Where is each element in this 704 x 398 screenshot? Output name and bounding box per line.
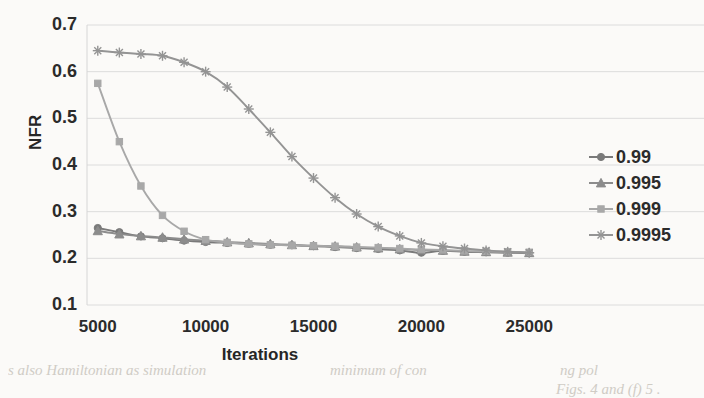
data-point-square [397,245,403,251]
y-tick-label: 0.5 [29,107,77,128]
y-tick-label: 0.6 [29,61,77,82]
legend: 0.990.9950.9990.9995 [588,144,671,248]
data-point-asterisk [179,57,189,67]
data-point-asterisk [524,248,534,258]
legend-label: 0.995 [616,174,661,192]
x-tick-label: 5000 [53,317,143,337]
data-point-square [289,242,295,248]
data-point-square [224,239,230,245]
legend-label: 0.99 [616,148,651,166]
data-point-asterisk [158,51,168,61]
x-tick-label: 15000 [269,317,359,337]
data-point-square [116,138,122,144]
legend-marker-square-icon [588,202,614,216]
data-point-asterisk [287,152,297,162]
data-point-square [95,80,101,86]
y-tick-label: 0.4 [29,154,77,175]
legend-marker-triangle-icon [588,176,614,190]
data-point-square [138,183,144,189]
data-point-square [310,243,316,249]
data-point-square [246,241,252,247]
legend-marker-asterisk-icon [588,228,614,242]
y-tick-label: 0.1 [29,294,77,315]
data-point-square [181,228,187,234]
data-point-asterisk [395,231,405,241]
data-point-square [353,244,359,250]
series-0.999 [95,80,533,255]
data-point-asterisk [265,127,275,137]
data-point-asterisk [438,241,448,251]
legend-label: 0.9995 [616,226,671,244]
series-line [98,51,529,253]
x-tick-label: 20000 [376,317,466,337]
legend-item-0.999[interactable]: 0.999 [588,196,671,222]
data-point-asterisk [416,238,426,248]
data-point-asterisk [352,209,362,219]
series-line [98,83,529,252]
legend-item-0.995[interactable]: 0.995 [588,170,671,196]
data-point-asterisk [136,49,146,59]
legend-item-0.9995[interactable]: 0.9995 [588,222,671,248]
data-point-asterisk [309,173,319,183]
legend-marker-circle-icon [588,150,614,164]
data-point-square [267,242,273,248]
data-point-square [202,236,208,242]
data-point-asterisk [222,82,232,92]
data-point-square [159,212,165,218]
data-point-asterisk [330,193,340,203]
data-point-asterisk [596,230,606,240]
x-axis-title: Iterations [0,345,520,365]
data-point-square [375,244,381,250]
y-tick-label: 0.7 [29,14,77,35]
data-point-asterisk [373,222,383,232]
legend-item-0.99[interactable]: 0.99 [588,144,671,170]
data-point-square [598,206,604,212]
series-0.9995 [93,46,534,258]
data-point-square [332,243,338,249]
data-point-circle [597,153,604,160]
x-tick-label: 25000 [484,317,574,337]
data-point-asterisk [481,245,491,255]
data-point-asterisk [201,67,211,77]
data-point-asterisk [93,46,103,56]
chart-container: s also Hamiltonian as simulation minimum… [0,0,704,398]
legend-label: 0.999 [616,200,661,218]
x-tick-label: 10000 [161,317,251,337]
data-point-asterisk [244,104,254,114]
y-tick-label: 0.3 [29,201,77,222]
y-tick-label: 0.2 [29,247,77,268]
data-point-asterisk [460,244,470,254]
data-point-asterisk [114,48,124,58]
